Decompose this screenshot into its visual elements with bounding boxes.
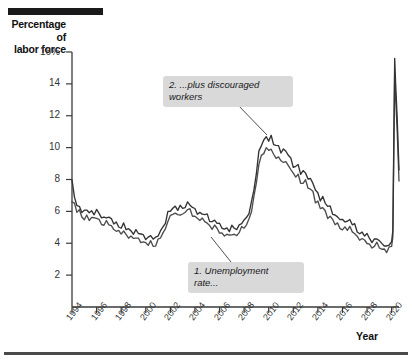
leader-line-1 bbox=[211, 237, 231, 262]
annotation-discouraged-workers: 2. ...plus discouraged workers bbox=[163, 76, 293, 107]
annotation-unemployment-rate: 1. Unemployment rate... bbox=[188, 262, 304, 293]
y-tick-label: 14 bbox=[30, 77, 60, 88]
leader-line-2 bbox=[236, 103, 267, 135]
y-tick-label: 6 bbox=[30, 205, 60, 216]
y-tick-label: 16% bbox=[30, 46, 60, 57]
y-tick-label: 12 bbox=[30, 109, 60, 120]
y-tick-label: 8 bbox=[30, 173, 60, 184]
y-tick-label: 4 bbox=[30, 237, 60, 248]
annotation-leader-lines bbox=[211, 103, 267, 262]
y-tick-label: 10 bbox=[30, 141, 60, 152]
y-tick-label: 2 bbox=[30, 269, 60, 280]
y-tick-marks bbox=[66, 52, 72, 275]
